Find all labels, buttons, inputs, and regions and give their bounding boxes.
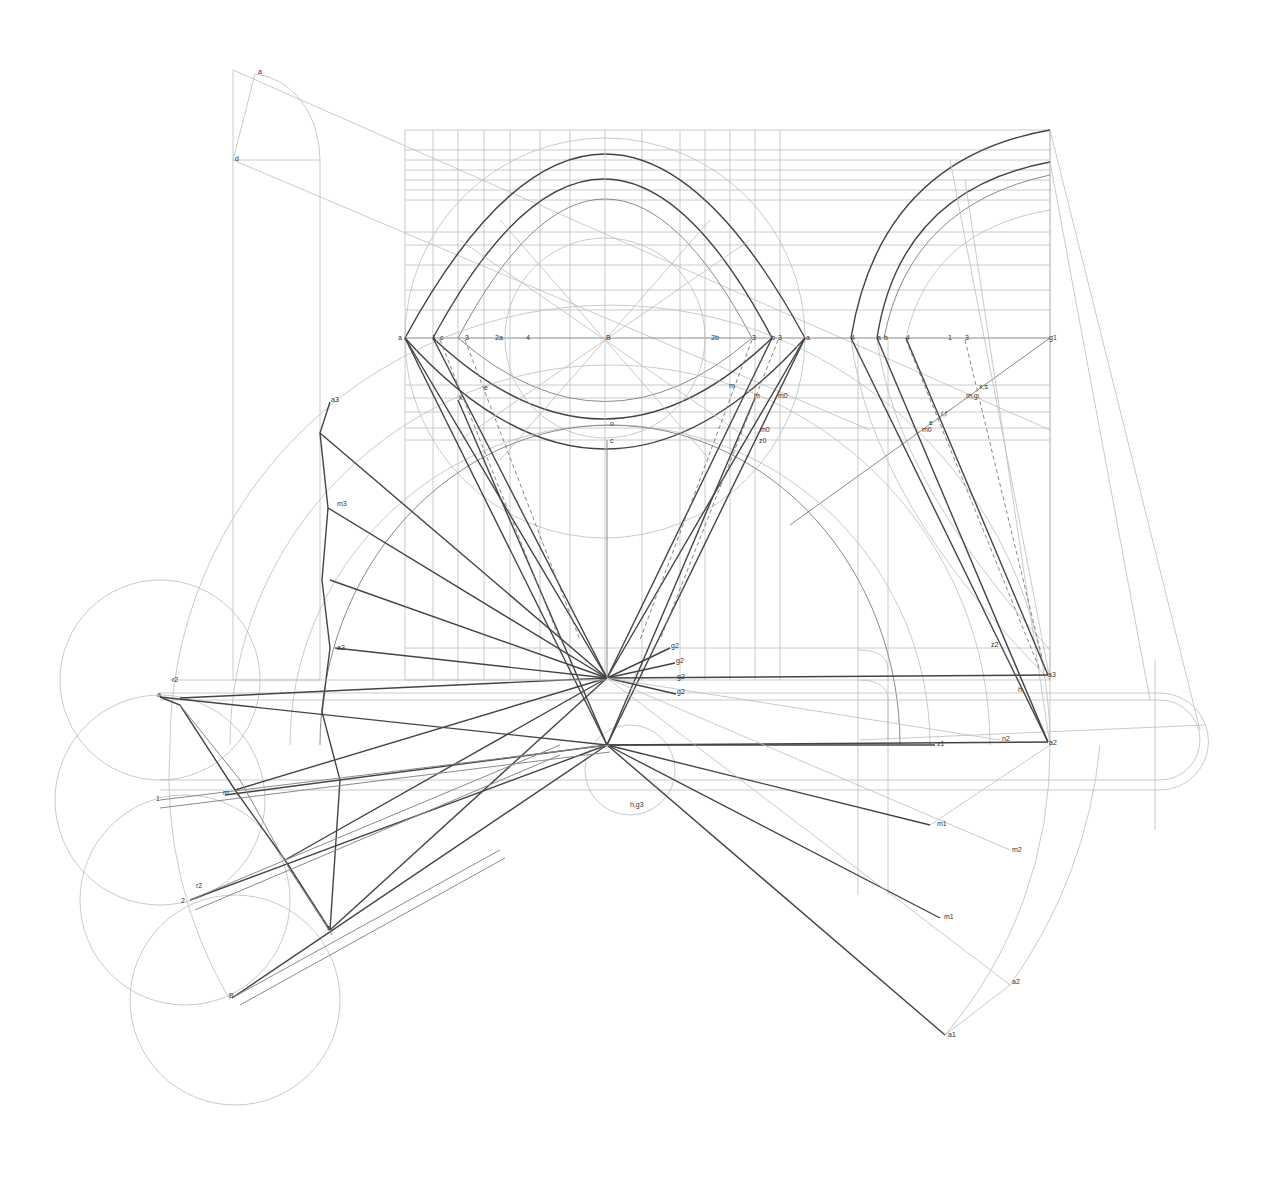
point-label: c (610, 437, 614, 444)
point-label: 1 (948, 334, 952, 341)
point-label: 4 (906, 334, 910, 341)
point-label: g2 (676, 657, 684, 665)
point-label: m3 (337, 500, 347, 507)
geometric-construction-drawing: ada1c32a4B2b3b3a4ab413g1x,sm,gr,fem0ekmm… (0, 0, 1280, 1178)
point-label: e (484, 384, 488, 391)
point-label: z1 (937, 740, 945, 747)
point-label: n2 (1002, 735, 1010, 742)
point-label: m0 (922, 426, 932, 433)
point-label: g1 (1049, 334, 1057, 342)
point-label: a (398, 334, 402, 341)
point-label: g2 (677, 673, 685, 681)
point-label: r,f (941, 410, 947, 417)
point-label: a (806, 334, 810, 341)
right-lower-construction (607, 650, 1050, 1035)
point-label: 4 (526, 334, 530, 341)
point-label: 4 (851, 334, 855, 341)
point-label: a (877, 334, 881, 341)
point-label: 3 (965, 334, 969, 341)
point-label: h (1018, 686, 1022, 693)
right-arch-profile (790, 130, 1200, 745)
point-label: m0 (778, 392, 788, 399)
point-label: m1 (944, 913, 954, 920)
point-label: o (610, 420, 614, 427)
point-label: m1 (937, 820, 947, 827)
lower-left-circles (55, 580, 675, 1105)
point-label: 2a (495, 334, 503, 341)
point-labels: ada1c32a4B2b3b3a4ab413g1x,sm,gr,fem0ekmm… (156, 68, 1057, 1038)
point-label: x,s (979, 383, 988, 390)
point-label: a3 (337, 644, 345, 651)
point-label: 2 (181, 897, 185, 904)
point-label: 2b (711, 334, 719, 341)
left-voussoir-profile (160, 402, 610, 1005)
point-label: k (459, 394, 463, 401)
point-label: B (229, 992, 234, 999)
point-label: 3 (778, 334, 782, 341)
point-label: r2 (172, 676, 178, 683)
point-label: m (223, 789, 229, 796)
point-label: s (327, 924, 331, 931)
central-arch-elevation (405, 130, 805, 680)
point-label: m,g (966, 392, 978, 400)
point-label: B (606, 334, 611, 341)
point-label: z2 (991, 641, 999, 648)
radiating-joint-lines (160, 338, 1048, 1035)
point-label: a2 (1049, 739, 1057, 746)
dashed-construction-lines (440, 340, 1045, 670)
point-label: m (754, 392, 760, 399)
point-label: h,g3 (630, 801, 644, 809)
point-label: a3 (331, 396, 339, 403)
point-label: b (771, 334, 775, 341)
point-label: b (884, 334, 888, 341)
point-label: 1 (432, 334, 436, 341)
point-label: m2 (1012, 846, 1022, 853)
point-label: a (258, 68, 262, 75)
point-label: d (235, 155, 239, 162)
point-label: e (929, 419, 933, 426)
point-label: 3 (752, 334, 756, 341)
point-label: 1 (156, 795, 160, 802)
point-label: z0 (759, 437, 767, 444)
point-label: m0 (760, 426, 770, 433)
point-label: g2 (671, 642, 679, 650)
point-label: c (440, 334, 444, 341)
point-label: a (157, 691, 161, 698)
point-label: a3 (1048, 671, 1056, 678)
point-label: g2 (677, 688, 685, 696)
point-label: a1 (948, 1031, 956, 1038)
point-label: 3 (465, 334, 469, 341)
point-label: a2 (1012, 978, 1020, 985)
point-label: m (729, 382, 735, 389)
point-label: r2 (196, 882, 202, 889)
